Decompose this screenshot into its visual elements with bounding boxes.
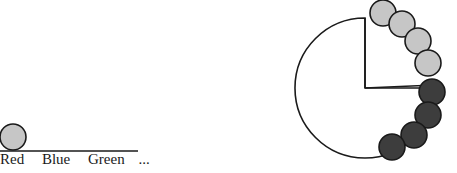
legend-labels: Red Blue Green ... — [0, 151, 200, 173]
arc-marker-8[interactable] — [379, 134, 405, 160]
legend-label-red: Red — [0, 151, 24, 168]
figure-canvas: Red Blue Green ... — [0, 0, 457, 173]
arc-marker-4[interactable] — [415, 50, 441, 76]
legend-label-green: Green — [88, 151, 125, 168]
legend-label-blue: Blue — [42, 151, 70, 168]
legend-label-more: ... — [138, 151, 149, 168]
pie-chart-figure — [0, 0, 457, 173]
arc-marker-5[interactable] — [419, 79, 445, 105]
legend-swatch-icon[interactable] — [0, 124, 26, 150]
